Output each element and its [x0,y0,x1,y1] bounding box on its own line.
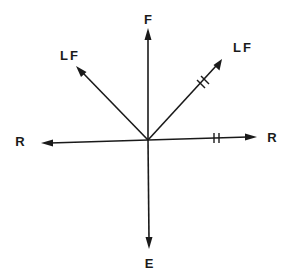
label-e: E [145,256,154,271]
label-f: F [144,12,152,27]
vector-lf-right [148,59,222,140]
arrowhead-icon [214,59,223,71]
vector-f [145,28,152,140]
label-r-left: R [15,134,25,149]
diagram-svg: F E R R LF LF [0,0,288,275]
label-lf-right: LF [233,40,253,55]
arrowhead-icon [145,28,152,40]
arrowhead-icon [146,237,153,249]
vector-lf-left [76,66,148,140]
force-vector-diagram: F E R R LF LF [0,0,288,275]
vector-e [146,140,153,249]
vector-r-right [148,133,257,143]
vector-r-left [41,140,148,147]
label-lf-left: LF [60,48,80,63]
arrowhead-icon [245,134,257,141]
arrowhead-icon [41,140,53,147]
label-r-right: R [267,130,277,145]
